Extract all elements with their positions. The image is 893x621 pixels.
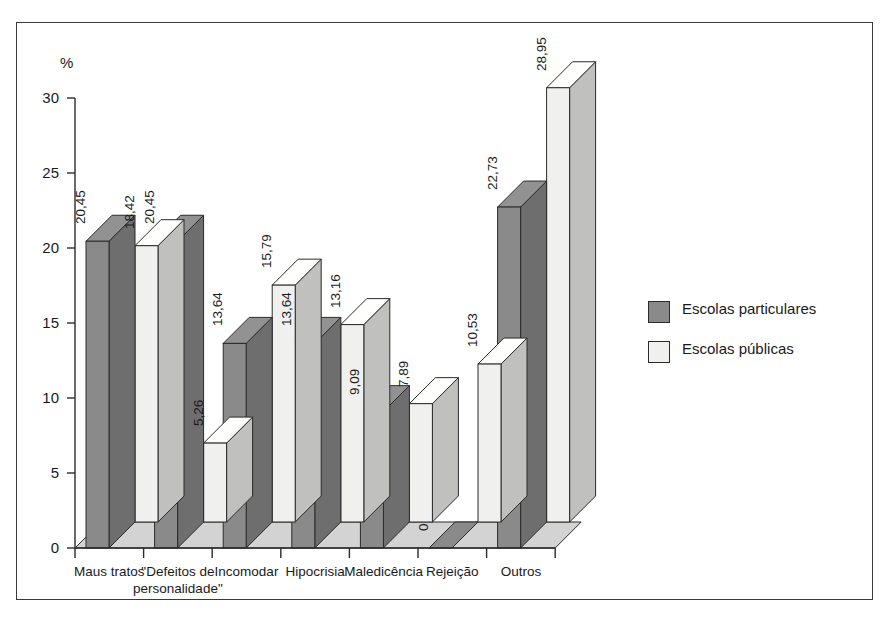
chart-page: % 051015202530 Maus tratos"Defeitos depe… xyxy=(0,0,893,621)
bar-label-1-escolas-publicas: 5,26 xyxy=(191,400,206,426)
x-axis-label-line: Outros xyxy=(501,564,542,579)
bar-label-4-escolas-particulares: 9,09 xyxy=(347,368,362,394)
bar-label-2-escolas-particulares: 13,64 xyxy=(210,293,225,327)
bar-label-5-escolas-particulares: 0 xyxy=(416,523,431,531)
bar-label-3-escolas-particulares: 13,64 xyxy=(279,293,294,327)
legend-swatch-escolas-publicas xyxy=(648,341,670,363)
y-axis-tick-0: 0 xyxy=(29,539,59,556)
x-axis-label-6: Outros xyxy=(431,563,611,580)
legend-swatch-escolas-particulares xyxy=(648,301,670,323)
y-axis-unit-label: % xyxy=(60,54,73,71)
bar-label-5-escolas-publicas: 10,53 xyxy=(465,313,480,347)
x-axis-label-line: personalidade" xyxy=(133,581,223,596)
legend-label-escolas-particulares: Escolas particulares xyxy=(682,300,816,317)
bar-label-0-escolas-publicas: 18,42 xyxy=(122,195,137,229)
bar-label-6-escolas-particulares: 22,73 xyxy=(485,156,500,190)
bar-label-1-escolas-particulares: 20,45 xyxy=(142,190,157,224)
y-axis-tick-15: 15 xyxy=(29,314,59,331)
y-axis-tick-10: 10 xyxy=(29,389,59,406)
bar-label-4-escolas-publicas: 7,89 xyxy=(396,360,411,386)
y-axis-tick-25: 25 xyxy=(29,164,59,181)
bar-label-3-escolas-publicas: 13,16 xyxy=(328,274,343,308)
bar-label-0-escolas-particulares: 20,45 xyxy=(73,190,88,224)
y-axis-tick-20: 20 xyxy=(29,239,59,256)
bar-label-6-escolas-publicas: 28,95 xyxy=(534,37,549,71)
y-axis-tick-5: 5 xyxy=(29,464,59,481)
bar-label-2-escolas-publicas: 15,79 xyxy=(259,234,274,268)
legend-label-escolas-publicas: Escolas públicas xyxy=(682,340,794,357)
y-axis-tick-30: 30 xyxy=(29,89,59,106)
